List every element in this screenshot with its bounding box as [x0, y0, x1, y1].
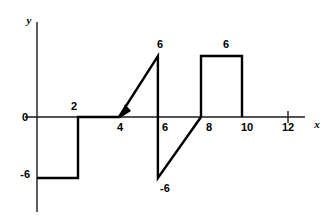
x-tick-label-2: 2 — [71, 100, 77, 112]
y-tick-label-neg6: -6 — [20, 168, 30, 180]
annotation-peak-right: 6 — [223, 38, 229, 50]
waveform-plot: y x 0 -6 2 4 6 8 10 12 6 6 -6 — [0, 0, 331, 222]
y-axis-label: y — [25, 14, 32, 26]
y-tick-label-0: 0 — [22, 111, 28, 123]
annotation-trough: -6 — [160, 182, 170, 194]
x-axis-label: x — [313, 118, 320, 130]
x-tick-label-6: 6 — [162, 121, 168, 133]
x-tick-label-4: 4 — [117, 121, 124, 133]
x-tick-label-8: 8 — [206, 121, 212, 133]
x-tick-label-10: 10 — [241, 121, 253, 133]
x-tick-label-12: 12 — [282, 121, 294, 133]
chart-figure: y x 0 -6 2 4 6 8 10 12 6 6 -6 — [0, 0, 331, 222]
annotation-peak-left: 6 — [157, 38, 163, 50]
